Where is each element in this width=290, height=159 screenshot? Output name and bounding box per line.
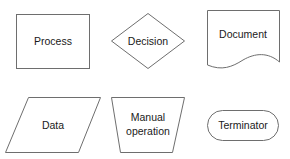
decision-shape: Decision [112,14,185,69]
decision-label: Decision [128,35,168,47]
document-label: Document [219,28,267,40]
document-shape: Document [208,11,280,68]
flowchart-shapes-diagram: Process Decision Document Data Manual op… [0,0,290,159]
data-label: Data [42,119,64,131]
process-shape: Process [17,15,90,69]
manual-operation-shape: Manual operation [112,98,185,153]
manual-operation-label-line-1: Manual [131,111,165,123]
data-shape: Data [6,98,101,153]
process-label: Process [34,35,72,47]
manual-operation-label-line-2: operation [126,125,170,137]
terminator-shape: Terminator [208,111,279,141]
terminator-label: Terminator [218,119,268,131]
